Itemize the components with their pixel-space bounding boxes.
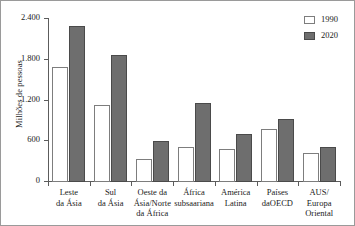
bar-1990-2 [94,105,110,182]
bar-group [178,19,211,182]
y-tick: 600 [44,140,49,141]
bar-group [136,19,169,182]
y-tick-label: 600 [27,134,40,145]
x-tick [257,181,258,186]
bar-group [261,19,294,182]
x-tick [48,181,49,186]
y-tick-label: 1.800 [21,53,40,64]
legend-label: 1990 [321,13,338,26]
x-tick [131,181,132,186]
chart-legend: 19902020 [304,13,338,45]
category-label-line: da África [127,208,177,219]
legend-swatch-1990 [304,16,315,24]
bar-1990-3 [136,159,152,182]
bar-2020-4 [195,103,211,182]
x-tick [215,181,216,186]
bar-1990-5 [219,149,235,182]
plot-area: 06001.2001.8002.400 [48,19,340,182]
bar-2020-7 [320,147,336,182]
category-label: AUS/EuropaOriental [294,187,344,219]
y-tick-label: 0 [36,175,40,186]
x-tick [340,181,341,186]
legend-label: 2020 [321,29,338,42]
category-label-line: Oriental [294,208,344,219]
legend-swatch-2020 [304,32,315,40]
bar-group [94,19,127,182]
bar-1990-7 [303,153,319,182]
y-tick: 1.200 [44,100,49,101]
bar-2020-2 [111,55,127,182]
category-label-line: Europa [294,198,344,209]
bar-1990-6 [261,129,277,182]
legend-item: 1990 [304,13,338,26]
bar-2020-3 [153,141,169,182]
bar-1990-1 [52,67,68,182]
legend-item: 2020 [304,29,338,42]
y-tick: 1.800 [44,59,49,60]
x-tick [173,181,174,186]
y-tick: 2.400 [44,18,49,19]
y-tick-label: 2.400 [21,12,40,23]
bar-2020-1 [69,26,85,182]
x-tick [90,181,91,186]
bar-1990-4 [178,147,194,182]
bar-2020-5 [236,134,252,182]
y-tick-label: 1.200 [21,94,40,105]
bar-group [52,19,85,182]
x-tick [298,181,299,186]
y-axis-line [48,19,49,182]
category-label-line: AUS/ [294,187,344,198]
chart-figure: Milhões de pessoas 06001.2001.8002.400 L… [0,0,355,226]
bar-group [219,19,252,182]
bar-2020-6 [278,119,294,183]
